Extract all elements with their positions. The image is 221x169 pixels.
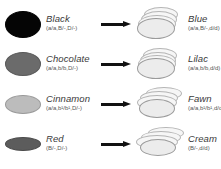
right-arrow-icon (101, 101, 131, 108)
result-genotype-label: (a/a,b/b,d/d) (188, 65, 220, 71)
diagram-row: Red (B/-,D/-) Cream (B/-,d/d) (0, 124, 221, 164)
source-swatch-cell (0, 11, 46, 38)
source-phenotype-label: Cinnamon (46, 93, 90, 104)
stacked-disc-illustration (136, 7, 184, 41)
source-color-swatch (5, 11, 41, 38)
source-color-swatch (5, 52, 41, 76)
result-phenotype-label: Blue (188, 13, 207, 24)
stacked-disc-illustration (136, 87, 184, 121)
source-phenotype-label: Chocolate (46, 53, 90, 64)
diagram-row: Chocolate (a/a,b/b,D/-) Lilac (a/a,b/b,d… (0, 44, 221, 84)
source-genotype-label: (a/a,B/-,D/-) (46, 25, 77, 31)
result-genotype-label: (a/a,B/-,d/d) (188, 25, 220, 31)
diagram-row: Cinnamon (a/a,b¹/b¹,D/-) Fawn (a/a,b¹/b¹… (0, 84, 221, 124)
right-arrow-icon (101, 21, 131, 28)
source-color-swatch (5, 95, 41, 114)
source-genotype-label: (a/a,b¹/b¹,D/-) (46, 105, 82, 111)
arrow-cell (98, 141, 134, 148)
source-swatch-cell (0, 52, 46, 76)
result-illustration-cell (134, 124, 186, 164)
result-label-cell: Fawn (a/a,b¹/b¹,d/d) (186, 84, 221, 124)
source-genotype-label: (B/-,D/-) (46, 145, 67, 151)
source-phenotype-label: Red (46, 133, 64, 144)
result-label-cell: Cream (B/-,d/d) (186, 124, 221, 164)
right-arrow-icon (101, 141, 131, 148)
diagram-row: Black (a/a,B/-,D/-) Blue (a/a,B/-,d/d) (0, 4, 221, 44)
result-genotype-label: (B/-,d/d) (188, 145, 210, 151)
source-label-cell: Chocolate (a/a,b/b,D/-) (46, 44, 98, 84)
source-label-cell: Cinnamon (a/a,b¹/b¹,D/-) (46, 84, 98, 124)
result-label-cell: Blue (a/a,B/-,d/d) (186, 4, 221, 44)
source-swatch-cell (0, 137, 46, 151)
right-arrow-icon (101, 61, 131, 68)
stacked-disc-illustration (136, 127, 184, 161)
result-illustration-cell (134, 84, 186, 124)
source-genotype-label: (a/a,b/b,D/-) (46, 65, 78, 71)
source-label-cell: Black (a/a,B/-,D/-) (46, 4, 98, 44)
result-phenotype-label: Lilac (188, 53, 208, 64)
source-label-cell: Red (B/-,D/-) (46, 124, 98, 164)
arrow-cell (98, 61, 134, 68)
result-phenotype-label: Fawn (188, 93, 212, 104)
result-label-cell: Lilac (a/a,b/b,d/d) (186, 44, 221, 84)
result-phenotype-label: Cream (188, 133, 217, 144)
source-swatch-cell (0, 95, 46, 114)
source-color-swatch (5, 137, 41, 151)
result-illustration-cell (134, 4, 186, 44)
source-phenotype-label: Black (46, 13, 70, 24)
result-genotype-label: (a/a,b¹/b¹,d/d) (188, 105, 221, 111)
stacked-disc-illustration (136, 47, 184, 81)
result-illustration-cell (134, 44, 186, 84)
dilution-diagram: Black (a/a,B/-,D/-) Blue (a/a,B/-,d/d) (0, 0, 221, 169)
arrow-cell (98, 101, 134, 108)
arrow-cell (98, 21, 134, 28)
